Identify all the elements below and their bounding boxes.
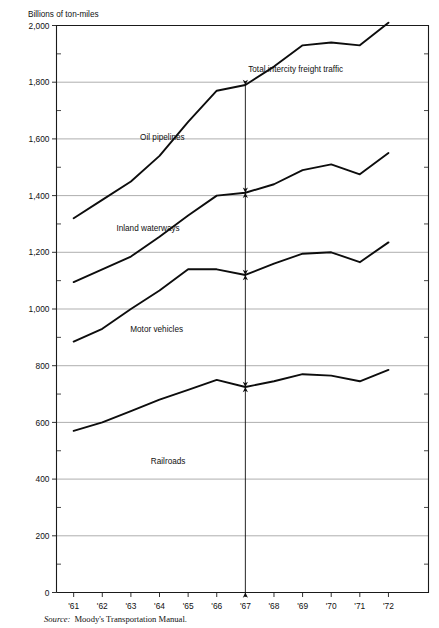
y-tick-label: 1,800 <box>29 77 50 87</box>
y-tick-label: 800 <box>36 361 50 371</box>
y-tick-label: 1,600 <box>29 134 50 144</box>
x-tick-label: '71 <box>354 601 365 611</box>
y-tick-label: 1,400 <box>29 191 50 201</box>
x-tick-label: '64 <box>154 601 165 611</box>
freight-traffic-chart-figure: Billions of ton-miles '61'62'63'64'65'66… <box>0 0 439 628</box>
series-annotation-label: Oil pipelines <box>140 133 185 142</box>
source-value: Moody's Transportation Manual. <box>74 614 187 624</box>
y-tick-label: 1,000 <box>29 304 50 314</box>
y-tick-label: 400 <box>36 474 50 484</box>
source-note: Source:Moody's Transportation Manual. <box>44 614 187 624</box>
x-tick-label: '66 <box>211 601 222 611</box>
x-tick-label: '69 <box>297 601 308 611</box>
x-tick-label: '72 <box>383 601 394 611</box>
source-label: Source: <box>44 614 71 624</box>
series-annotation-label: Inland waterways <box>116 224 179 233</box>
y-tick-label: 2,000 <box>29 21 50 31</box>
series-annotation-label: Motor vehicles <box>130 325 183 334</box>
x-tick-label: '67 <box>240 601 251 611</box>
x-tick-label: '63 <box>125 601 136 611</box>
series-annotation-label: Total intercity freight traffic <box>248 65 343 74</box>
x-tick-label: '68 <box>269 601 280 611</box>
y-axis-title: Billions of ton-miles <box>28 10 99 19</box>
x-tick-label: '70 <box>326 601 337 611</box>
chart-canvas: Billions of ton-miles '61'62'63'64'65'66… <box>0 0 439 628</box>
y-tick-label: 200 <box>36 531 50 541</box>
y-tick-label: 600 <box>36 418 50 428</box>
series-annotation-label: Railroads <box>151 457 186 466</box>
y-tick-label: 1,200 <box>29 247 50 257</box>
x-tick-label: '65 <box>183 601 194 611</box>
x-tick-label: '61 <box>68 601 79 611</box>
x-tick-label: '62 <box>97 601 108 611</box>
chart-background <box>0 0 439 628</box>
y-tick-label: 0 <box>45 588 50 598</box>
